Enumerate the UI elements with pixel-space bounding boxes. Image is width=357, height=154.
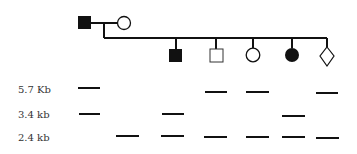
child-3-circle-icon — [246, 48, 260, 62]
child-1-affected-square-icon — [169, 49, 182, 62]
mother-circle-icon — [118, 17, 131, 30]
band-label-2.4: 2.4 kb — [18, 132, 50, 144]
band-label-3.4: 3.4 kb — [18, 109, 50, 121]
child-5-diamond-icon — [320, 47, 334, 66]
pedigree-gel-diagram — [0, 0, 357, 154]
band-label-5.7: 5.7 Kb — [18, 84, 51, 96]
child-4-affected-circle-icon — [285, 48, 299, 62]
gel-bands — [78, 88, 339, 138]
child-2-square-icon — [210, 49, 223, 62]
father-affected-square-icon — [78, 16, 91, 29]
